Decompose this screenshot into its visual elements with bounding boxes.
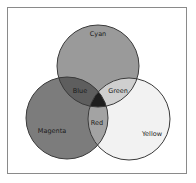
label-blue: Blue [73,87,87,95]
label-cyan: Cyan [90,30,107,38]
label-red: Red [91,119,103,127]
label-magenta: Magenta [38,127,66,135]
venn-diagram: Cyan Magenta Yellow Blue Green Red [0,0,196,183]
label-green: Green [108,87,128,95]
label-yellow: Yellow [141,130,163,138]
